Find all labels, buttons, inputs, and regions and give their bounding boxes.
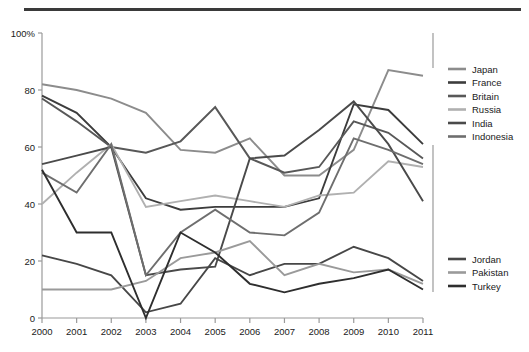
- y-axis-tick-label: 0: [30, 313, 35, 324]
- y-axis-tick-label: 80: [24, 85, 35, 96]
- legend-label-jordan: Jordan: [472, 254, 501, 265]
- y-axis-tick-label: 100%: [11, 28, 36, 39]
- legend-group-upper: JapanFranceBritainRussiaIndiaIndonesia: [448, 64, 514, 143]
- legend-label-turkey: Turkey: [472, 281, 501, 292]
- x-axis-tick-label: 2001: [66, 326, 87, 337]
- x-axis-tick-label: 2011: [413, 326, 433, 337]
- x-axis-tick-label: 2007: [274, 326, 295, 337]
- line-chart-svg: 020406080100%200020012002200320042005200…: [0, 0, 529, 352]
- legend-label-britain: Britain: [472, 91, 499, 102]
- legend-label-japan: Japan: [472, 64, 498, 75]
- series-line-russia: [42, 144, 423, 207]
- legend-label-france: France: [472, 77, 502, 88]
- series-group: [42, 70, 423, 318]
- x-axis-tick-label: 2006: [239, 326, 260, 337]
- x-axis-tick-label: 2003: [135, 326, 156, 337]
- legend-label-indonesia: Indonesia: [472, 131, 514, 142]
- legend-label-russia: Russia: [472, 104, 502, 115]
- legend-label-india: India: [472, 118, 493, 129]
- x-axis-tick-label: 2009: [343, 326, 364, 337]
- x-axis-tick-label: 2008: [309, 326, 330, 337]
- y-axis-tick-label: 60: [24, 142, 35, 153]
- series-line-turkey: [42, 170, 423, 318]
- legend-label-pakistan: Pakistan: [472, 267, 508, 278]
- legend-group-lower: JordanPakistanTurkey: [448, 254, 508, 292]
- x-axis-tick-label: 2010: [378, 326, 399, 337]
- y-axis-tick-label: 40: [24, 199, 35, 210]
- x-axis-tick-label: 2002: [101, 326, 122, 337]
- series-line-india: [42, 101, 423, 275]
- x-axis-tick-label: 2005: [205, 326, 226, 337]
- y-axis-tick-label: 20: [24, 256, 35, 267]
- series-line-jordan: [42, 247, 423, 313]
- series-line-france: [42, 96, 423, 210]
- x-axis-tick-label: 2000: [31, 326, 52, 337]
- series-line-pakistan: [42, 241, 423, 289]
- x-axis-tick-label: 2004: [170, 326, 191, 337]
- chart-page: 020406080100%200020012002200320042005200…: [0, 0, 529, 352]
